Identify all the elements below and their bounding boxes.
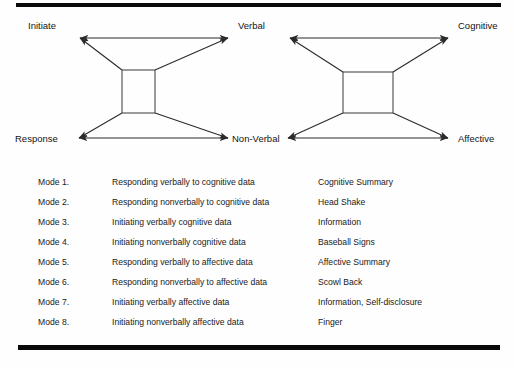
mode-example: Cognitive Summary [318,172,508,192]
mode-label: Mode 8. [38,312,108,332]
diagram-left-diagonal-top-left [80,38,122,70]
diagram-left-label-top-right: Verbal [238,20,265,31]
mode-list-row: Mode 4. Initiating nonverbally cognitive… [0,232,516,252]
mode-list-row: Mode 5. Responding verbally to affective… [0,252,516,272]
mode-example: Information [318,212,508,232]
mode-list-row: Mode 8. Initiating nonverbally affective… [0,312,516,332]
mode-example: Affective Summary [318,252,508,272]
diagram-left-diagonal-bottom-right [155,113,228,138]
mode-label: Mode 4. [38,232,108,252]
mode-description: Responding nonverbally to affective data [112,272,312,292]
diagram-right-diagonal-bottom-right [393,113,448,138]
diagram-right-center-box [343,72,393,113]
diagram-right-label-bottom-right: Affective [458,133,494,144]
mode-list-row: Mode 3. Initiating verbally cognitive da… [0,212,516,232]
mode-example: Information, Self-disclosure [318,292,508,312]
diagram-right: Cognitive Affective [288,20,498,144]
top-divider-rule [16,3,501,7]
mode-example: Finger [318,312,508,332]
mode-description: Initiating verbally affective data [112,292,312,312]
mode-label: Mode 2. [38,192,108,212]
mode-example: Baseball Signs [318,232,508,252]
mode-list-row: Mode 6. Responding nonverbally to affect… [0,272,516,292]
mode-list-row: Mode 1. Responding verbally to cognitive… [0,172,516,192]
mode-label: Mode 7. [38,292,108,312]
diagram-right-diagonal-top-left [290,38,343,72]
mode-list-row: Mode 2. Responding nonverbally to cognit… [0,192,516,212]
figure-page: Initiate Response Verbal Non-Verbal [0,0,516,366]
mode-label: Mode 6. [38,272,108,292]
mode-example: Scowl Back [318,272,508,292]
mode-description: Initiating nonverbally cognitive data [112,232,312,252]
diagram-left-diagonal-top-right [155,38,228,70]
mode-label: Mode 3. [38,212,108,232]
diagram-left-diagonal-bottom-left [79,113,122,138]
diagram-left-label-top-left: Initiate [28,20,56,31]
mode-description: Responding verbally to affective data [112,252,312,272]
diagram-left-label-bottom-right: Non-Verbal [232,133,280,144]
mode-description: Initiating verbally cognitive data [112,212,312,232]
diagram-left-label-bottom-left: Response [15,133,58,144]
mode-list-row: Mode 7. Initiating verbally affective da… [0,292,516,312]
mode-list: Mode 1. Responding verbally to cognitive… [0,172,516,332]
diagram-left-center-box [122,70,155,113]
mode-description: Responding nonverbally to cognitive data [112,192,312,212]
diagram-left: Initiate Response Verbal Non-Verbal [15,20,280,144]
mode-example: Head Shake [318,192,508,212]
diagram-right-diagonal-bottom-left [288,113,343,138]
mode-label: Mode 1. [38,172,108,192]
mode-description: Responding verbally to cognitive data [112,172,312,192]
bottom-divider-rule [18,345,500,350]
diagram-right-diagonal-top-right [393,38,448,72]
diagram-right-label-top-right: Cognitive [458,20,498,31]
mode-label: Mode 5. [38,252,108,272]
bowtie-diagrams: Initiate Response Verbal Non-Verbal [0,10,516,160]
mode-description: Initiating nonverbally affective data [112,312,312,332]
